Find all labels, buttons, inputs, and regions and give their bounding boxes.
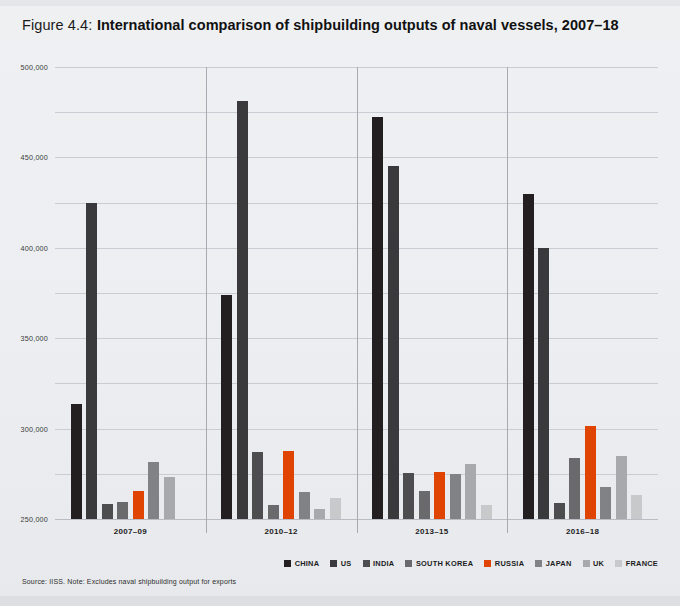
bar-china (523, 194, 534, 519)
bar-group (357, 67, 508, 519)
bar-russia (283, 451, 294, 519)
legend-swatch-icon (615, 560, 622, 567)
bar-uk (616, 456, 627, 519)
legend-item-uk[interactable]: UK (583, 559, 605, 568)
legend-swatch-icon (330, 560, 337, 567)
legend-label: CHINA (295, 559, 320, 568)
bar-us (86, 203, 97, 519)
legend-item-russia[interactable]: RUSSIA (484, 559, 524, 568)
bottom-edge-shade (0, 596, 680, 606)
x-axis-group-label: 2007–09 (55, 527, 206, 536)
bar-us (538, 248, 549, 519)
bar-south-korea (569, 458, 580, 519)
legend-swatch-icon (284, 560, 291, 567)
bar-russia (434, 472, 445, 519)
figure-number: Figure 4.4: (22, 17, 92, 33)
figure-panel: Figure 4.4: International comparison of … (0, 0, 680, 606)
legend-label: US (341, 559, 352, 568)
group-separator (206, 67, 207, 533)
chart-plot-area: 050,000100,000150,000200,000250,000300,0… (55, 67, 658, 519)
legend-label: SOUTH KOREA (416, 559, 473, 568)
figure-title: International comparison of shipbuilding… (97, 17, 619, 33)
bar-japan (600, 487, 611, 519)
bar-group (206, 67, 357, 519)
legend-swatch-icon (484, 560, 491, 567)
bar-south-korea (268, 505, 279, 519)
bar-russia (133, 491, 144, 519)
bar-india (102, 504, 113, 519)
y-axis-tick-label: 350,000 (21, 334, 48, 343)
bar-group (507, 67, 658, 519)
page-title: Figure 4.4: International comparison of … (22, 16, 662, 40)
bar-india (252, 452, 263, 519)
group-separator (507, 67, 508, 533)
x-axis-group-label: 2013–15 (357, 527, 508, 536)
y-axis-tick-label: 500,000 (21, 63, 48, 72)
legend-label: RUSSIA (495, 559, 524, 568)
legend-item-south-korea[interactable]: SOUTH KOREA (405, 559, 473, 568)
legend-label: INDIA (373, 559, 394, 568)
bar-group (55, 67, 206, 519)
group-separator (357, 67, 358, 533)
bar-china (372, 117, 383, 519)
bar-uk (164, 477, 175, 519)
legend-item-france[interactable]: FRANCE (615, 559, 658, 568)
bar-russia (585, 426, 596, 519)
legend-label: JAPAN (546, 559, 572, 568)
legend-label: UK (593, 559, 604, 568)
legend-swatch-icon (405, 560, 412, 567)
bar-uk (465, 464, 476, 519)
bar-china (221, 295, 232, 519)
legend-item-india[interactable]: INDIA (363, 559, 395, 568)
y-axis-tick-label: 450,000 (21, 153, 48, 162)
y-axis-tick-label: 250,000 (21, 515, 48, 524)
bar-india (403, 473, 414, 519)
bar-uk (314, 509, 325, 519)
top-edge-shade (0, 0, 680, 6)
legend-label: FRANCE (626, 559, 658, 568)
legend-swatch-icon (535, 560, 542, 567)
legend-swatch-icon (583, 560, 590, 567)
bar-japan (148, 462, 159, 519)
legend-item-us[interactable]: US (330, 559, 351, 568)
legend-item-china[interactable]: CHINA (284, 559, 319, 568)
bar-south-korea (419, 491, 430, 519)
bar-us (388, 166, 399, 519)
bar-south-korea (117, 502, 128, 519)
y-axis-tick-label: 300,000 (21, 424, 48, 433)
bar-france (481, 505, 492, 519)
legend-swatch-icon (363, 560, 370, 567)
bar-japan (299, 492, 310, 519)
bar-france (631, 495, 642, 519)
x-axis-group-label: 2010–12 (206, 527, 357, 536)
bar-china (71, 404, 82, 519)
y-axis-tick-label: 400,000 (21, 243, 48, 252)
bar-japan (450, 474, 461, 519)
bar-india (554, 503, 565, 519)
bar-france (330, 498, 341, 519)
x-axis-group-label: 2016–18 (507, 527, 658, 536)
bar-us (237, 101, 248, 519)
chart-legend: CHINAUSINDIASOUTH KOREARUSSIAJAPANUKFRAN… (0, 559, 680, 568)
source-note: Source: IISS. Note: Excludes naval shipb… (22, 578, 236, 585)
legend-item-japan[interactable]: JAPAN (535, 559, 571, 568)
